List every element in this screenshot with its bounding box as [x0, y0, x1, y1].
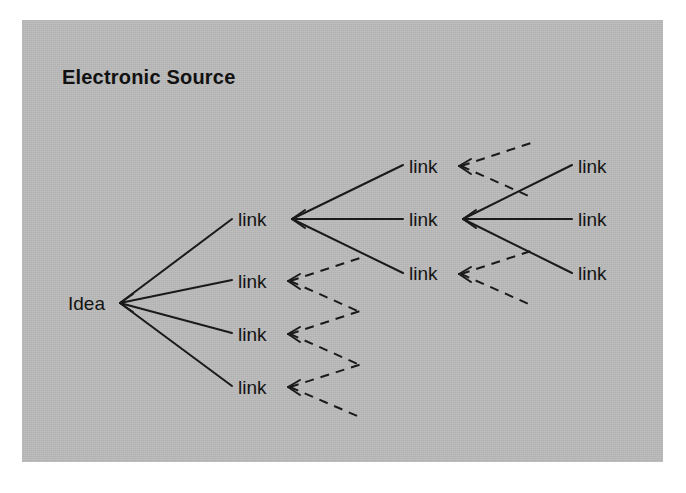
edge-group-idea-to-col2: [120, 219, 232, 386]
node-c2n3[interactable]: link: [238, 325, 267, 344]
edge-c2n1-c3n3: [292, 219, 403, 273]
edge-c3n1-stub-up: [461, 143, 531, 166]
arrowhead-c2n4: [288, 380, 300, 395]
node-c3n3[interactable]: link: [409, 264, 438, 283]
edge-c3n1-stub-down: [461, 166, 531, 197]
edge-c2n2-stub-up: [290, 258, 360, 281]
edge-c2n1-c3n1: [292, 165, 403, 219]
edge-idea-c2n3: [120, 303, 232, 333]
node-c4n1[interactable]: link: [578, 157, 607, 176]
node-c3n1[interactable]: link: [409, 157, 438, 176]
node-c4n2[interactable]: link: [578, 210, 607, 229]
screenshot-root: Electronic Source: [0, 0, 686, 493]
edge-group-c3n2-to-col4: [463, 165, 572, 273]
edge-group-c2n4-dashed: [290, 364, 362, 418]
node-c3n2[interactable]: link: [409, 210, 438, 229]
node-c2n2[interactable]: link: [238, 272, 267, 291]
node-idea[interactable]: Idea: [68, 294, 105, 313]
node-c2n4[interactable]: link: [238, 378, 267, 397]
edge-c2n4-stub-up: [290, 364, 362, 387]
arrowhead-c3n3: [459, 267, 471, 282]
edge-c2n3-stub-down: [290, 334, 360, 365]
edge-idea-c2n1: [120, 219, 232, 303]
edge-group-c2n1-to-col3: [292, 165, 403, 273]
edge-group-c3n3-dashed: [461, 251, 531, 305]
edge-c3n3-stub-down: [461, 274, 531, 305]
edge-c3n3-stub-up: [461, 251, 531, 274]
edge-idea-c2n4: [120, 303, 232, 386]
edge-c3n2-c4n3: [463, 219, 572, 273]
edge-c2n2-stub-down: [290, 281, 360, 312]
edge-group-c2n2-dashed: [290, 258, 360, 312]
edge-c2n3-stub-up: [290, 311, 360, 334]
arrowhead-c2n3: [288, 327, 300, 342]
edge-group-c2n3-dashed: [290, 311, 360, 365]
arrowhead-c2n2: [288, 274, 300, 289]
node-c4n3[interactable]: link: [578, 264, 607, 283]
node-c2n1[interactable]: link: [238, 210, 267, 229]
edge-c2n4-stub-down: [290, 387, 362, 418]
arrowhead-c3n1: [459, 159, 471, 174]
diagram-edges: [0, 0, 686, 493]
edge-group-c3n1-dashed: [461, 143, 531, 197]
